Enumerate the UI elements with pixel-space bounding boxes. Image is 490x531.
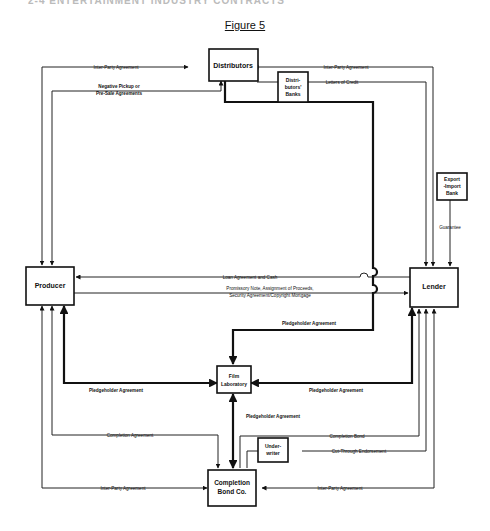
svg-text:Completion Agreement: Completion Agreement: [107, 433, 154, 438]
svg-text:Under-: Under-: [265, 443, 281, 449]
label-producer: Producer: [35, 282, 66, 289]
svg-text:Completion Bond: Completion Bond: [329, 434, 365, 439]
svg-text:Pledgeholder Agreement: Pledgeholder Agreement: [282, 321, 337, 326]
edge-producer-distributors-interparty: [42, 67, 188, 265]
edge-completion-agreement: [52, 306, 218, 468]
svg-text:-Import: -Import: [443, 183, 461, 189]
svg-text:Security Agreement/Copyright M: Security Agreement/Copyright Mortgage: [229, 293, 311, 298]
svg-text:Distri-: Distri-: [286, 77, 301, 83]
svg-text:Film: Film: [229, 373, 240, 379]
edge-letters-of-credit: [270, 82, 426, 266]
svg-text:Bank: Bank: [446, 190, 458, 196]
svg-text:Pledgeholder Agreement: Pledgeholder Agreement: [309, 388, 364, 393]
svg-text:Guarantee: Guarantee: [439, 225, 461, 230]
svg-text:Laboratory: Laboratory: [221, 381, 247, 387]
svg-text:Inter-Party Agreement: Inter-Party Agreement: [324, 65, 370, 70]
svg-text:Bond Co.: Bond Co.: [218, 488, 247, 495]
svg-text:writer: writer: [265, 450, 280, 456]
edge-pledgeholder-lender-lab: [251, 308, 412, 383]
svg-text:Pre-Sale Agreements: Pre-Sale Agreements: [96, 91, 142, 96]
financing-flow-diagram: Distributors Distri- butors' Banks Expor…: [0, 0, 490, 531]
edge-pledgeholder-producer-lab: [64, 306, 217, 383]
svg-text:Pledgeholder Agreement: Pledgeholder Agreement: [89, 388, 144, 393]
svg-text:Export: Export: [444, 176, 460, 182]
edge-producer-bond-interparty: [42, 306, 207, 488]
node-film-laboratory: [217, 366, 251, 393]
svg-text:Negative Pickup or: Negative Pickup or: [98, 84, 140, 89]
svg-text:Inter-Party Agreement: Inter-Party Agreement: [101, 486, 147, 491]
svg-text:Loan Agreement and Cash: Loan Agreement and Cash: [223, 275, 278, 280]
edge-negative-pickup: [52, 81, 221, 265]
svg-text:Inter-Party Agreement: Inter-Party Agreement: [94, 65, 140, 70]
svg-text:Completion: Completion: [214, 479, 250, 487]
svg-text:Pledgeholder Agreement: Pledgeholder Agreement: [246, 414, 301, 419]
edge-cut-through: [247, 451, 258, 468]
label-lender: Lender: [422, 283, 446, 290]
svg-text:Letters of Credit: Letters of Credit: [326, 80, 359, 85]
svg-text:Banks: Banks: [285, 91, 300, 97]
svg-text:Promissory Note, Assignment of: Promissory Note, Assignment of Proceeds,: [226, 286, 313, 291]
svg-text:butors': butors': [285, 84, 302, 90]
svg-text:Inter-Party Agreement: Inter-Party Agreement: [318, 486, 364, 491]
label-distributors: Distributors: [213, 62, 253, 69]
svg-text:Cut-Through Endorsement: Cut-Through Endorsement: [332, 449, 387, 454]
